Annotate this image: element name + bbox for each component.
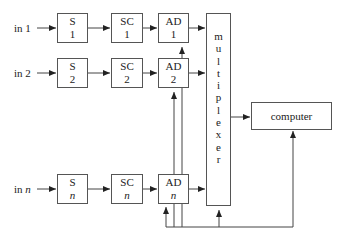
box-index: 2 <box>70 73 76 86</box>
box-index: 1 <box>171 28 177 41</box>
box-index: n <box>70 189 76 202</box>
sensor-box-n: S n <box>57 174 88 204</box>
box-name: SC <box>120 15 133 28</box>
signal-conditioner-box-2: SC 2 <box>111 58 143 88</box>
box-index: 2 <box>124 73 130 86</box>
box-name: AD <box>166 60 182 73</box>
input-index: 2 <box>25 67 31 79</box>
mux-letter: l <box>217 104 220 116</box>
computer-box: computer <box>251 102 332 130</box>
signal-conditioner-box-n: SC n <box>111 174 143 204</box>
ad-converter-box-1: AD 1 <box>158 13 189 43</box>
box-index: 2 <box>171 73 177 86</box>
input-prefix: in <box>14 67 25 79</box>
mux-letter: i <box>217 79 220 91</box>
sensor-box-2: S 2 <box>57 58 88 88</box>
box-index: n <box>171 189 177 202</box>
computer-label: computer <box>271 110 313 123</box>
input-prefix: in <box>14 22 25 34</box>
input-label-2: in 2 <box>14 67 31 79</box>
box-index: 1 <box>70 28 76 41</box>
mux-letter: p <box>216 91 222 103</box>
mux-letter: m <box>214 30 223 42</box>
mux-letter: r <box>217 153 221 165</box>
ad-converter-box-n: AD n <box>158 174 189 204</box>
box-name: S <box>69 60 75 73</box>
box-name: AD <box>166 176 182 189</box>
signal-conditioner-box-1: SC 1 <box>111 13 143 43</box>
box-index: 1 <box>124 28 130 41</box>
input-label-1: in 1 <box>14 22 31 34</box>
box-name: SC <box>120 60 133 73</box>
input-prefix: in <box>14 183 25 195</box>
input-label-n: in n <box>14 183 31 195</box>
mux-letter: t <box>217 67 220 79</box>
sensor-box-1: S 1 <box>57 13 88 43</box>
ad-converter-box-2: AD 2 <box>158 58 189 88</box>
box-index: n <box>124 189 130 202</box>
input-index: 1 <box>25 22 31 34</box>
mux-letter: l <box>217 55 220 67</box>
box-name: AD <box>166 15 182 28</box>
mux-letter: x <box>216 128 222 140</box>
box-name: SC <box>120 176 133 189</box>
mux-letter: e <box>216 116 221 128</box>
mux-letter: e <box>216 141 221 153</box>
box-name: S <box>69 15 75 28</box>
multiplexer-box: m u l t i p l e x e r <box>206 13 231 206</box>
input-index: n <box>25 183 31 195</box>
mux-letter: u <box>216 42 222 54</box>
box-name: S <box>69 176 75 189</box>
